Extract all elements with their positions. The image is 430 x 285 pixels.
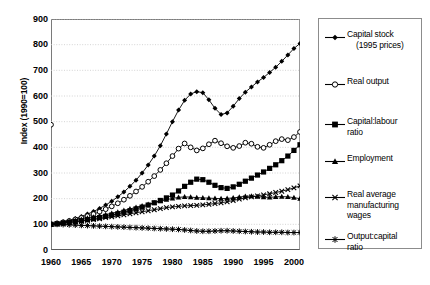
plot-series-canvas (51, 19, 300, 250)
x-tick-label: 1980 (155, 258, 189, 267)
y-tick-label: 300 (20, 169, 48, 178)
legend-label-line: wages (347, 210, 399, 221)
x-tick-label: 1960 (34, 258, 68, 267)
legend-item[interactable]: Output:capitalratio (324, 231, 420, 252)
x-tick-label: 1975 (125, 258, 159, 267)
legend-label-line: Employment (347, 153, 393, 164)
legend-item-label: Capital stock(1995 prices) (346, 29, 404, 50)
legend-label-line: Capital:labour (347, 116, 397, 127)
legend-label-line: Real average (347, 189, 399, 200)
legend-item-label: Real averagemanufacturingwages (346, 189, 399, 221)
x-tick-label: 1995 (247, 258, 281, 267)
legend-item[interactable]: Capital:labourratio (324, 116, 420, 137)
diamond-marker-icon (324, 29, 346, 40)
x-tick-label: 1965 (64, 258, 98, 267)
legend-item[interactable]: Capital stock(1995 prices) (324, 29, 420, 50)
legend-label-line: Capital stock (347, 29, 404, 40)
legend-label-line: Output:capital (347, 231, 397, 242)
legend-item[interactable]: Employment (324, 153, 420, 164)
y-tick-label: 400 (20, 143, 48, 152)
legend-label-line: (1995 prices) (347, 40, 404, 51)
open-circle-marker-icon (324, 76, 346, 87)
series-4 (51, 184, 300, 227)
chart-figure: Index (1990=100) 01002003004005006007008… (0, 0, 430, 285)
x-tick-label: 2000 (277, 258, 311, 267)
x-tick-label: 1970 (95, 258, 129, 267)
triangle-marker-icon (324, 153, 346, 164)
legend-label-line: ratio (347, 127, 397, 138)
legend-item-label: Capital:labourratio (346, 116, 397, 137)
y-tick-label: 200 (20, 194, 48, 203)
series-line (51, 145, 300, 225)
cross-x-marker-icon (324, 189, 346, 200)
y-axis-tick-labels: 0100200300400500600700800900 (18, 0, 48, 285)
y-tick-label: 100 (20, 220, 48, 229)
x-tick-label: 1985 (186, 258, 220, 267)
y-tick-label: 800 (20, 40, 48, 49)
series-markers (51, 221, 300, 235)
legend-item[interactable]: Real output (324, 76, 420, 87)
legend-item-label: Output:capitalratio (346, 231, 397, 252)
legend-item-label: Employment (346, 153, 393, 164)
y-tick-label: 900 (20, 15, 48, 24)
legend-label-line: ratio (347, 242, 397, 253)
legend-item-label: Real output (346, 76, 389, 87)
y-tick-label: 700 (20, 66, 48, 75)
y-tick-label: 0 (20, 246, 48, 255)
filled-square-marker-icon (324, 116, 346, 127)
star-marker-icon (324, 231, 346, 242)
series-5 (51, 221, 300, 235)
legend-label-line: Real output (347, 76, 389, 87)
y-tick-label: 500 (20, 117, 48, 126)
chart-legend: Capital stock(1995 prices)Real outputCap… (318, 18, 422, 249)
legend-label-line: manufacturing (347, 200, 399, 211)
y-tick-label: 600 (20, 92, 48, 101)
legend-item[interactable]: Real averagemanufacturingwages (324, 189, 420, 221)
x-tick-label: 1990 (216, 258, 250, 267)
